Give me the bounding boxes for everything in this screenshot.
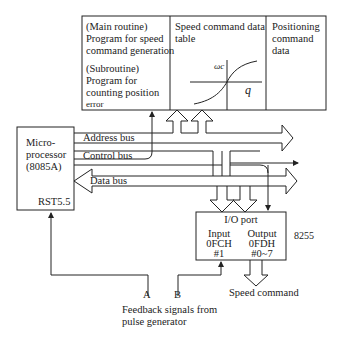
data-bus-label: Data bus	[90, 175, 127, 187]
input-bit: #1	[200, 248, 238, 260]
q-axis-label: q	[245, 84, 251, 96]
subroutine-line-3: error	[86, 99, 104, 109]
microprocessor-line-3: (8085A)	[26, 161, 62, 173]
subroutine-line-2: counting position	[86, 87, 159, 99]
main-routine-line-2: command generation	[86, 45, 174, 57]
main-routine-line-1: Program for speed	[86, 33, 164, 45]
feedback-line-1: Feedback signals from	[122, 304, 217, 316]
omega-c-label: ωc	[214, 60, 224, 72]
control-bus-label: Control bus	[83, 150, 132, 162]
positioning-line-3: data	[272, 45, 290, 57]
rst55-pin-label: RST5.5	[38, 196, 70, 208]
subroutine-title: (Subroutine)	[86, 63, 139, 75]
io-port-title: I/O port	[196, 214, 286, 226]
main-routine-title: (Main routine)	[86, 21, 148, 33]
chip-8255-label: 8255	[294, 230, 314, 242]
microprocessor-line-2: processor	[26, 149, 66, 161]
address-bus-label: Address bus	[83, 132, 135, 144]
signal-a-label: A	[143, 289, 151, 301]
signal-b-label: B	[174, 289, 181, 301]
speed-table-line-2: table	[175, 33, 195, 45]
microprocessor-line-1: Micro-	[26, 137, 55, 149]
positioning-line-2: command	[272, 33, 313, 45]
speed-command-label: Speed command	[229, 287, 299, 299]
output-bit: #0~7	[240, 248, 284, 260]
speed-table-line-1: Speed command data	[175, 21, 265, 33]
positioning-line-1: Positioning	[272, 21, 320, 33]
feedback-line-2: pulse generator	[122, 316, 186, 328]
subroutine-line-1: Program for	[86, 75, 137, 87]
